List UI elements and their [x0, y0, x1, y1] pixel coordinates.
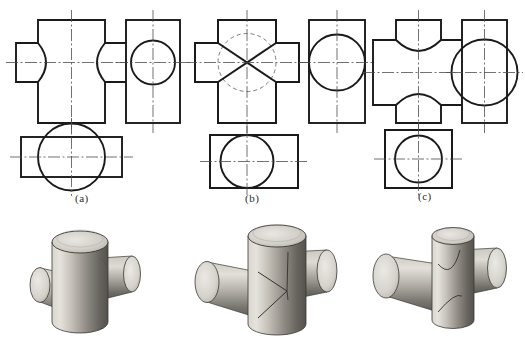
c-main-top-cap	[432, 228, 474, 245]
caption-b: (b)	[245, 193, 259, 204]
pictorial-b-main-cylinder	[248, 225, 306, 336]
pictorial-b	[195, 225, 337, 336]
view-c-top	[374, 122, 463, 197]
b-main-body	[248, 236, 306, 335]
group-a-views	[6, 10, 190, 196]
c-right-branch-cap	[488, 248, 507, 288]
pictorial-c-left-branch	[373, 254, 438, 312]
a-right-branch-cap	[124, 256, 141, 292]
group-b-views	[185, 10, 375, 198]
a-main-body	[52, 242, 108, 333]
pictorial-a	[30, 230, 141, 333]
caption-a: (a)	[75, 193, 89, 204]
caption-c: (c)	[418, 191, 432, 202]
view-a-front	[6, 10, 137, 133]
view-b-side	[299, 10, 375, 133]
view-a-top	[10, 118, 133, 196]
b-right-branch-cap	[317, 250, 337, 292]
view-a-side	[116, 10, 190, 133]
view-b-top	[200, 126, 308, 198]
c-left-branch-cap	[373, 254, 399, 298]
view-b-front	[185, 10, 310, 133]
orthographic-views-svg	[0, 0, 525, 346]
a-left-branch-cap	[30, 268, 50, 303]
pictorial-c	[373, 228, 507, 329]
drawing-sheet: (a) (b) (c)	[0, 0, 525, 346]
pictorial-c-main-cylinder	[432, 228, 474, 329]
group-c-views	[363, 10, 523, 197]
b-left-branch-cap	[195, 262, 219, 303]
view-c-front	[363, 10, 474, 133]
c-main-body	[432, 236, 474, 329]
pictorial-a-main-cylinder	[52, 230, 108, 333]
